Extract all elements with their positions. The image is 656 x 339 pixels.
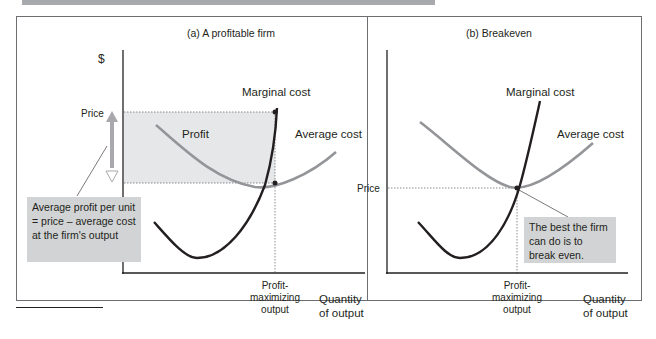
output-marker-label: Profit- maximizing output xyxy=(487,280,547,316)
marginal-cost-label: Marginal cost xyxy=(506,86,574,99)
callout-leader-line xyxy=(519,190,568,217)
arrow-down-head xyxy=(106,171,118,182)
average-profit-callout: Average profit per unit = price – averag… xyxy=(27,197,141,262)
marginal-cost-label: Marginal cost xyxy=(242,86,310,99)
x-axis-label-line-2: of output xyxy=(319,306,364,320)
price-label: Price xyxy=(81,107,104,120)
x-axis-label: Quantity of output xyxy=(319,292,364,320)
output-marker-line-1: Profit- xyxy=(245,280,305,292)
output-marker-line-1: Profit- xyxy=(487,280,547,292)
output-marker-line-2: maximizing xyxy=(245,292,305,304)
average-cost-label: Average cost xyxy=(557,128,624,141)
average-cost-label: Average cost xyxy=(295,128,362,141)
marginal-cost-curve xyxy=(418,101,540,258)
x-axis-label-line-2: of output xyxy=(583,306,628,320)
y-axis-label: $ xyxy=(98,53,105,66)
x-axis-label-line-1: Quantity xyxy=(319,292,364,306)
arrow-up-head xyxy=(106,111,118,122)
output-marker-label: Profit- maximizing output xyxy=(245,280,305,316)
output-marker-line-2: maximizing xyxy=(487,292,547,304)
panel-a-title: (a) A profitable firm xyxy=(187,27,275,40)
price-label: Price xyxy=(357,182,380,195)
profit-label: Profit xyxy=(182,128,209,141)
output-marker-line-3: output xyxy=(487,304,547,316)
arrow-shaft xyxy=(110,122,114,168)
callout-leader-line xyxy=(77,146,107,196)
profit-area xyxy=(124,112,275,183)
panel-b-title: (b) Breakeven xyxy=(466,27,532,40)
price-mc-point xyxy=(273,110,278,115)
x-axis-label: Quantity of output xyxy=(583,292,628,320)
output-marker-line-3: output xyxy=(245,304,305,316)
ac-output-point xyxy=(273,181,278,186)
x-axis-label-line-1: Quantity xyxy=(583,292,628,306)
breakeven-point xyxy=(515,186,520,191)
breakeven-callout: The best the firm can do is to break eve… xyxy=(524,217,616,263)
cost-curves-diagram xyxy=(0,0,656,339)
